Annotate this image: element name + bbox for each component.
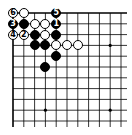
star-point-icon — [44, 109, 47, 112]
black-stone — [51, 30, 61, 40]
move-number: 4 — [10, 31, 16, 39]
white-stone — [19, 8, 29, 18]
go-board: 653142 — [0, 0, 132, 135]
black-stone: 3 — [8, 19, 18, 29]
move-number: 3 — [10, 20, 16, 28]
move-number: 1 — [53, 20, 59, 28]
black-stone: 1 — [51, 19, 61, 29]
move-number: 5 — [53, 9, 59, 17]
white-stone: 6 — [8, 8, 18, 18]
black-stone — [30, 40, 40, 50]
star-point-icon — [109, 44, 112, 47]
move-number: 2 — [21, 31, 27, 39]
black-stone — [19, 19, 29, 29]
white-stone — [30, 19, 40, 29]
black-stone — [30, 30, 40, 40]
white-stone: 4 — [8, 30, 18, 40]
white-stone: 2 — [19, 30, 29, 40]
white-stone — [40, 30, 50, 40]
star-point-icon — [109, 109, 112, 112]
move-number: 6 — [10, 9, 16, 17]
